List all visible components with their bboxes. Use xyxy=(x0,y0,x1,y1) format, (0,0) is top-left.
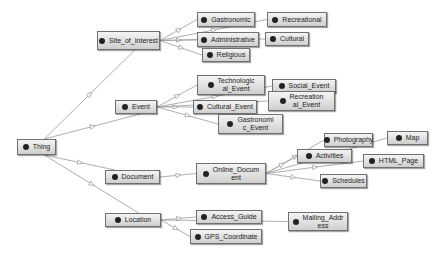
subclass-arrow-icon xyxy=(173,105,178,109)
class-node-label: Map xyxy=(406,134,420,142)
class-node-schedules[interactable]: Schedules xyxy=(320,174,367,188)
subclass-arrow-icon xyxy=(176,27,183,33)
class-node-site-of-interest[interactable]: Site_of_Interest xyxy=(97,31,160,50)
subclass-arrow-icon xyxy=(185,113,191,119)
class-node-label: HTML_Page xyxy=(379,157,418,165)
subclass-arrow-icon xyxy=(178,45,184,51)
class-node-label: Religious xyxy=(217,51,246,59)
class-node-mailing-address[interactable]: Mailing_Addr ess xyxy=(288,212,348,231)
subclass-arrow-icon xyxy=(176,173,181,178)
class-node-label: Online_Docum ent xyxy=(213,166,259,182)
ontology-graph-canvas: ThingSite_of_InterestEventDocumentLocati… xyxy=(0,0,442,261)
class-node-recreational[interactable]: Recreational xyxy=(267,12,327,27)
class-node-label: Recreational xyxy=(282,16,321,24)
class-node-gastronomic-event[interactable]: Gastronomi c_Event xyxy=(218,114,283,134)
class-node-label: Cultural_Event xyxy=(207,103,253,111)
class-bullet-icon xyxy=(293,219,299,225)
class-node-label: GPS_Coordinate xyxy=(205,233,258,241)
class-node-gps-coordinate[interactable]: GPS_Coordinate xyxy=(190,229,262,244)
class-node-photography[interactable]: Photography xyxy=(324,133,373,147)
class-bullet-icon xyxy=(201,37,207,43)
class-bullet-icon xyxy=(306,153,312,159)
class-bullet-icon xyxy=(115,217,121,223)
class-node-html-page[interactable]: HTML_Page xyxy=(363,154,424,168)
class-node-label: Location xyxy=(125,216,151,224)
class-node-technological-event[interactable]: Technologic al_Event xyxy=(197,75,265,95)
class-bullet-icon xyxy=(322,178,328,184)
class-node-label: Site_of_Interest xyxy=(109,37,158,45)
class-node-label: Technologic al_Event xyxy=(218,77,255,93)
class-node-map[interactable]: Map xyxy=(387,131,428,145)
class-bullet-icon xyxy=(207,52,213,58)
class-node-label: Gastronomi c_Event xyxy=(237,116,273,132)
class-bullet-icon xyxy=(197,104,203,110)
class-node-label: Mailing_Addr ess xyxy=(303,214,344,230)
class-bullet-icon xyxy=(203,171,209,177)
class-node-label: Access_Guide xyxy=(211,213,256,221)
class-bullet-icon xyxy=(272,17,278,23)
class-node-cultural-event[interactable]: Cultural_Event xyxy=(193,100,257,114)
class-node-label: Cultural xyxy=(280,35,304,43)
class-node-document[interactable]: Document xyxy=(105,170,160,184)
class-bullet-icon xyxy=(369,158,375,164)
class-bullet-icon xyxy=(324,137,330,143)
class-node-religious[interactable]: Religious xyxy=(202,48,250,62)
class-node-label: Activities xyxy=(316,152,344,160)
class-bullet-icon xyxy=(201,214,207,220)
subclass-arrow-icon xyxy=(90,124,96,130)
class-node-recreational-event[interactable]: Recreation al_Event xyxy=(268,91,335,111)
class-bullet-icon xyxy=(99,38,105,44)
class-bullet-icon xyxy=(112,174,118,180)
class-node-label: Social_Event xyxy=(289,82,330,90)
class-node-label: Photography xyxy=(334,136,374,144)
subclass-arrow-icon xyxy=(174,93,181,99)
class-node-access-guide[interactable]: Access_Guide xyxy=(196,210,262,224)
class-node-label: Administrative xyxy=(211,36,255,44)
class-bullet-icon xyxy=(227,121,233,127)
class-node-online-document[interactable]: Online_Docum ent xyxy=(196,163,266,184)
class-node-label: Event xyxy=(132,103,150,111)
class-node-label: Schedules xyxy=(332,177,365,185)
class-node-label: Document xyxy=(122,173,154,181)
class-bullet-icon xyxy=(195,234,201,240)
subclass-arrow-icon xyxy=(291,175,297,180)
class-node-administrative[interactable]: Administrative xyxy=(197,32,259,47)
class-node-label: Gastronomic xyxy=(211,16,251,24)
subclass-arrow-icon xyxy=(77,160,83,165)
class-node-location[interactable]: Location xyxy=(105,213,161,227)
class-node-thing[interactable]: Thing xyxy=(17,139,56,155)
class-bullet-icon xyxy=(270,36,276,42)
class-bullet-icon xyxy=(208,82,214,88)
class-node-activities[interactable]: Activities xyxy=(297,149,352,163)
class-bullet-icon xyxy=(280,98,286,104)
class-node-label: Thing xyxy=(33,143,51,151)
subclass-arrow-icon xyxy=(173,225,180,231)
class-bullet-icon xyxy=(279,83,285,89)
class-node-gastronomic[interactable]: Gastronomic xyxy=(197,12,255,27)
subclass-arrow-icon xyxy=(89,181,96,187)
class-node-label: Recreation al_Event xyxy=(290,93,324,109)
class-bullet-icon xyxy=(122,104,128,110)
class-node-cultural[interactable]: Cultural xyxy=(265,32,309,46)
class-bullet-icon xyxy=(23,144,29,150)
class-bullet-icon xyxy=(396,135,402,141)
class-node-event[interactable]: Event xyxy=(115,100,157,114)
class-bullet-icon xyxy=(201,17,207,23)
subclass-arrow-icon xyxy=(279,161,286,167)
subclass-arrow-icon xyxy=(312,165,318,170)
